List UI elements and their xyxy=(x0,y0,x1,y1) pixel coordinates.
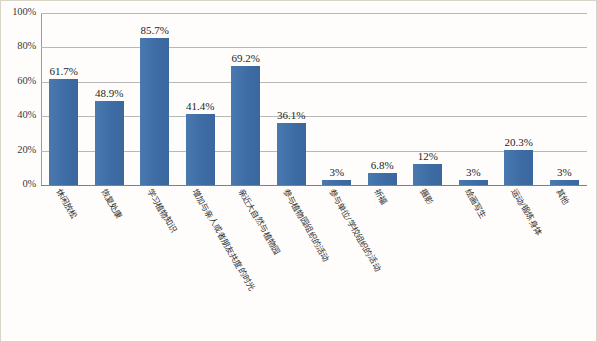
chart-figure: 0%20%40%60%80%100% 61.7%48.9%85.7%41.4%6… xyxy=(0,0,597,342)
x-label-slot: 学习植物知识 xyxy=(132,185,178,335)
x-label-slot: 亲近大自然与植物园 xyxy=(223,185,269,335)
x-axis-tick-label: 休闲放松 xyxy=(54,187,78,220)
bar-value-label: 41.4% xyxy=(186,100,214,112)
y-axis-tick-label: 40% xyxy=(17,110,41,121)
bar-slot: 69.2% xyxy=(223,13,269,185)
bar-value-label: 3% xyxy=(329,166,344,178)
bar[interactable]: 85.7% xyxy=(140,38,169,185)
bar-slot: 3% xyxy=(451,13,497,185)
x-label-slot: 祈福 xyxy=(360,185,406,335)
bar-slot: 61.7% xyxy=(41,13,87,185)
bar-value-label: 36.1% xyxy=(277,109,305,121)
x-label-slot: 休闲放松 xyxy=(41,185,87,335)
bar-slot: 12% xyxy=(405,13,451,185)
x-label-slot: 增加与亲人或者朋友共度的时光 xyxy=(178,185,224,335)
bar-value-label: 48.9% xyxy=(95,87,123,99)
x-axis-tick-label: 运动/锻炼身体 xyxy=(509,187,543,237)
bar[interactable]: 20.3% xyxy=(504,150,533,185)
y-axis-tick-label: 80% xyxy=(17,41,41,52)
bar-slot: 3% xyxy=(314,13,360,185)
bar[interactable]: 41.4% xyxy=(186,114,215,185)
bar-slot: 36.1% xyxy=(269,13,315,185)
bar-value-label: 20.3% xyxy=(505,136,533,148)
x-axis-tick-label: 学习植物知识 xyxy=(145,187,178,235)
bar-slot: 41.4% xyxy=(178,13,224,185)
x-axis-labels: 休闲放松恢复处康学习植物知识增加与亲人或者朋友共度的时光亲近大自然与植物园参与植… xyxy=(41,185,587,335)
x-axis-tick-label: 绘画写生 xyxy=(464,187,488,220)
bar[interactable]: 69.2% xyxy=(231,66,260,185)
x-label-slot: 运动/锻炼身体 xyxy=(496,185,542,335)
bar[interactable]: 36.1% xyxy=(277,123,306,185)
x-label-slot: 绘画写生 xyxy=(451,185,497,335)
y-axis-tick-label: 20% xyxy=(17,144,41,155)
bar[interactable]: 61.7% xyxy=(49,79,78,185)
bar[interactable]: 48.9% xyxy=(95,101,124,185)
bar-slot: 3% xyxy=(542,13,588,185)
x-label-slot: 参与单位/学校组织的活动 xyxy=(314,185,360,335)
x-label-slot: 摄影 xyxy=(405,185,451,335)
y-axis-tick-label: 100% xyxy=(12,6,41,17)
x-axis-tick-label: 祈福 xyxy=(373,187,389,206)
bar-value-label: 85.7% xyxy=(141,24,169,36)
y-axis-tick-label: 60% xyxy=(17,75,41,86)
bar-slot: 48.9% xyxy=(87,13,133,185)
bar-value-label: 6.8% xyxy=(371,159,394,171)
bar-slot: 6.8% xyxy=(360,13,406,185)
bar-value-label: 12% xyxy=(418,150,438,162)
bar-value-label: 3% xyxy=(557,166,572,178)
x-label-slot: 恢复处康 xyxy=(87,185,133,335)
x-label-slot: 其他 xyxy=(542,185,588,335)
x-axis-tick-label: 其他 xyxy=(555,187,571,206)
bar[interactable]: 12% xyxy=(413,164,442,185)
x-axis-tick-label: 摄影 xyxy=(418,187,434,206)
bar-value-label: 3% xyxy=(466,166,481,178)
plot-area: 0%20%40%60%80%100% 61.7%48.9%85.7%41.4%6… xyxy=(41,13,587,185)
y-axis-tick-label: 0% xyxy=(22,178,41,189)
x-axis-tick-label: 恢复处康 xyxy=(100,187,124,220)
bar-slot: 20.3% xyxy=(496,13,542,185)
bar-slot: 85.7% xyxy=(132,13,178,185)
bar-value-label: 69.2% xyxy=(232,52,260,64)
bars-layer: 61.7%48.9%85.7%41.4%69.2%36.1%3%6.8%12%3… xyxy=(41,13,587,185)
x-label-slot: 参与植物园组织的活动 xyxy=(269,185,315,335)
bar-value-label: 61.7% xyxy=(50,65,78,77)
bar[interactable]: 6.8% xyxy=(368,173,397,185)
